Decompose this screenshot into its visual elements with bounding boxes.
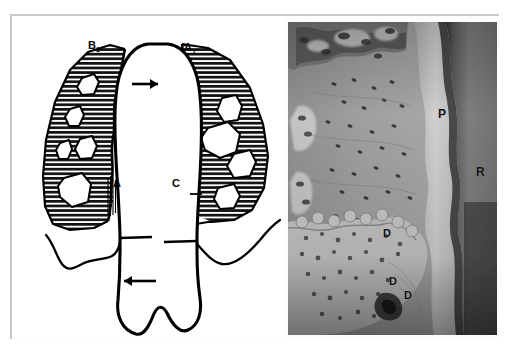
photo-label-d-2: D [389, 276, 397, 287]
panel-diagram [12, 16, 284, 337]
panel-photomicrograph [288, 22, 497, 335]
photo-label-d-1: D [383, 228, 391, 239]
diagram-label-a: A [113, 178, 121, 189]
tooth-outline [115, 44, 202, 334]
photo-label-d-3: D [404, 290, 412, 301]
figure-plate: B1 A1 A C [0, 0, 511, 349]
diagram-label-c: C [172, 178, 180, 189]
diagram-label-a1: A1 [184, 42, 196, 53]
micrograph-image [288, 22, 497, 335]
diagram-label-b1: B1 [88, 40, 100, 51]
diagram-drawing [12, 16, 284, 337]
photo-label-r: R [476, 166, 485, 178]
photo-label-p: P [438, 108, 446, 120]
